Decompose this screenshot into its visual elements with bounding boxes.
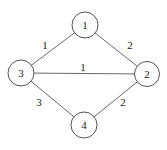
edge-weight-1-2: 2 [127,39,133,51]
node-3: 3 [8,60,34,86]
node-4: 4 [71,112,97,138]
weighted-graph-diagram: 1 2 1 3 2 1 2 3 4 [0,0,167,150]
node-1: 1 [72,12,98,38]
edge-weight-4-2: 2 [120,96,126,108]
node-label-4: 4 [81,119,87,131]
node-2: 2 [135,62,160,87]
node-label-1: 1 [82,19,88,31]
edge-3-2 [21,73,147,74]
edge-weight-3-2: 1 [80,61,86,73]
node-label-3: 3 [18,67,24,79]
edge-weight-3-1: 1 [42,39,48,51]
edge-weight-3-4: 3 [36,96,42,108]
node-label-2: 2 [144,68,150,80]
